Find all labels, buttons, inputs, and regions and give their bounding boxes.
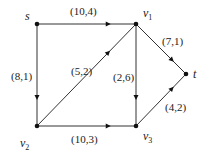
edge-v3-t: (4,2) (136, 74, 186, 126)
edge-label: (10,4) (70, 5, 97, 18)
arrowhead-icon (35, 95, 40, 100)
edge-label: (4,2) (165, 101, 186, 114)
node-s: s (25, 9, 39, 26)
arrowhead-icon (106, 22, 111, 27)
node-dot-icon (35, 124, 40, 129)
edge-line (136, 74, 186, 126)
edge-label: (7,1) (162, 35, 183, 48)
edge-label: (2,6) (113, 71, 134, 84)
flow-network-diagram: (10,4)(8,1)(5,2)(2,6)(7,1)(10,3)(4,2)sv1… (0, 0, 206, 159)
node-dot-icon (35, 22, 40, 27)
node-label: v1 (143, 6, 152, 22)
edge-line (136, 24, 186, 74)
node-t: t (184, 67, 197, 81)
edge-v1-v3: (2,6) (113, 24, 139, 126)
node-v1: v1 (134, 6, 153, 26)
edge-v1-t: (7,1) (136, 24, 186, 74)
edge-s-v2: (8,1) (11, 24, 40, 126)
arrowhead-icon (106, 124, 111, 129)
node-label: v3 (143, 129, 152, 145)
edge-label: (10,3) (71, 133, 98, 146)
edge-label: (8,1) (11, 70, 32, 83)
edge-s-v1: (10,4) (37, 5, 136, 27)
node-label: t (193, 67, 197, 81)
node-dot-icon (134, 22, 139, 27)
node-dot-icon (134, 124, 139, 129)
diagram-svg: (10,4)(8,1)(5,2)(2,6)(7,1)(10,3)(4,2)sv1… (0, 0, 206, 159)
node-label: s (25, 9, 30, 23)
edge-label: (5,2) (71, 65, 92, 78)
node-label: v2 (20, 136, 29, 152)
node-dot-icon (184, 72, 189, 77)
node-v2: v2 (20, 124, 39, 152)
edge-v2-v3: (10,3) (37, 124, 136, 147)
node-v3: v3 (134, 124, 153, 145)
arrowhead-icon (134, 95, 139, 100)
